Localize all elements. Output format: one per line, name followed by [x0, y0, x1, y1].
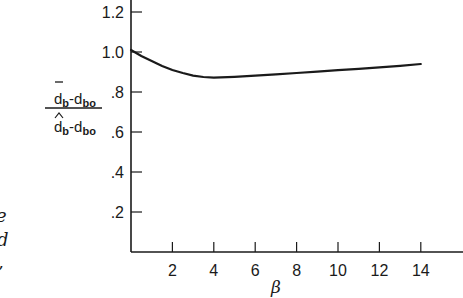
- axes: [131, 0, 463, 252]
- y-axis-label: db-dbo db-dbo: [45, 82, 102, 137]
- x-tick-label: 10: [329, 262, 347, 279]
- y-tick-label: .2: [111, 204, 124, 221]
- y-tick-label: .8: [111, 84, 124, 101]
- data-line: [131, 50, 421, 78]
- x-tick-label: 2: [168, 262, 177, 279]
- x-tick-label: 6: [251, 262, 260, 279]
- x-axis-label: β: [270, 277, 281, 297]
- y-tick-label: 1.0: [102, 44, 124, 61]
- y-label-denominator: db-dbo: [54, 118, 96, 137]
- x-tick-label: 8: [292, 262, 301, 279]
- fragment-text: ,: [0, 251, 4, 272]
- x-tick-label: 14: [412, 262, 430, 279]
- left-text-fragments: e d ,: [0, 205, 9, 272]
- y-tick-label: 1.2: [102, 4, 124, 21]
- y-tick-label: .6: [111, 124, 124, 141]
- x-tick-label: 4: [209, 262, 218, 279]
- fragment-text: d: [0, 229, 9, 250]
- fragment-text: e: [0, 205, 7, 226]
- x-tick-label: 12: [371, 262, 389, 279]
- y-label-numerator: db-dbo: [54, 90, 96, 109]
- y-tick-label: .4: [111, 164, 124, 181]
- line-chart: .2.4.6.81.01.2 2468101214 β db-dbo db-db…: [0, 0, 463, 298]
- x-axis-ticks: 2468101214: [168, 242, 430, 279]
- y-axis-ticks: .2.4.6.81.01.2: [102, 4, 142, 221]
